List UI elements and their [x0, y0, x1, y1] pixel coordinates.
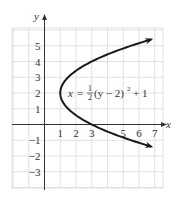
y-tick-label: 1	[35, 103, 41, 115]
y-tick-label: 2	[35, 87, 41, 99]
eq-tail: + 1	[133, 87, 147, 99]
x-tick-label: 6	[136, 127, 142, 139]
y-tick-label: 3	[35, 71, 41, 83]
y-tick-label: −3	[29, 166, 41, 178]
y-axis-label: y	[33, 10, 39, 22]
x-tick-label: 3	[89, 127, 95, 139]
eq-lhs: x	[67, 87, 73, 99]
parabola-chart: 12356754321−1−2−3 x y x = 1 2 (y − 2) 2 …	[0, 0, 176, 198]
x-tick-label: 2	[73, 127, 79, 139]
x-tick-label: 1	[58, 127, 64, 139]
eq-frac-den: 2	[88, 93, 92, 102]
eq-body: (y − 2)	[94, 87, 124, 100]
x-axis-label: x	[165, 118, 171, 130]
y-tick-label: 4	[35, 56, 41, 68]
y-tick-label: −2	[29, 150, 41, 162]
y-tick-label: −1	[29, 134, 41, 146]
x-tick-label: 7	[152, 127, 158, 139]
eq-equals: =	[77, 87, 83, 99]
y-tick-label: 5	[35, 40, 41, 52]
eq-exponent: 2	[127, 85, 131, 93]
eq-frac-num: 1	[88, 84, 92, 93]
